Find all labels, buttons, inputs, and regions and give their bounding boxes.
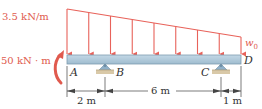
pin-support-b-icon xyxy=(96,64,114,74)
w-subscript: 0 xyxy=(254,43,258,51)
distributed-load xyxy=(67,9,241,54)
moment-label: 50 kN · m xyxy=(1,56,51,66)
pin-support-c-icon xyxy=(212,64,230,74)
point-d-label: D xyxy=(244,55,253,66)
point-b-label: B xyxy=(116,67,124,78)
dimension-bc-label: 6 m xyxy=(151,86,170,96)
right-load-intensity-label: w0 xyxy=(245,38,258,51)
w-symbol: w xyxy=(245,37,254,48)
point-c-label: C xyxy=(201,67,209,78)
beam xyxy=(67,55,241,64)
dimension-cd-label: 1 m xyxy=(223,96,242,106)
left-load-intensity-label: 3.5 kN/m xyxy=(2,12,49,22)
load-arrows xyxy=(67,9,241,54)
point-a-label: A xyxy=(70,67,78,78)
dimension-ab-label: 2 m xyxy=(77,96,96,106)
moment-arrow-icon xyxy=(55,50,64,83)
